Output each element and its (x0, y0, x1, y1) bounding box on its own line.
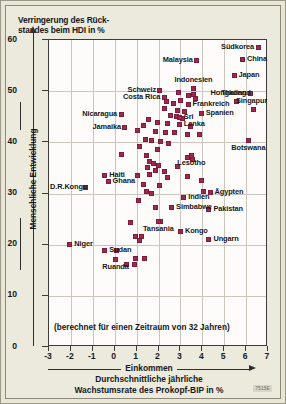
y-axis-label-rule-top (20, 102, 21, 130)
x-axis-tick-mark (136, 346, 137, 351)
y-axis-label: Menschliche Entwicklung (28, 104, 38, 254)
gridline-vertical (159, 40, 160, 345)
data-point-label: D.R.Kongo (50, 183, 87, 191)
data-point-labeled (240, 57, 245, 62)
x-axis-tick-label: -3 (36, 351, 60, 361)
data-point (163, 130, 168, 135)
data-point-label: Singapur (236, 97, 267, 105)
data-point (155, 147, 160, 152)
data-point (162, 106, 167, 111)
data-point (158, 139, 163, 144)
data-point (144, 153, 149, 158)
data-point (199, 178, 204, 183)
gridline-vertical (93, 40, 94, 345)
data-point (165, 175, 170, 180)
data-point-labeled (113, 257, 118, 262)
data-point (185, 174, 190, 179)
data-point-label: Kongo (185, 227, 208, 235)
data-point (157, 183, 162, 188)
data-point-label: Ruanda (102, 263, 129, 271)
data-point (141, 182, 146, 187)
data-point-labeled (102, 248, 107, 253)
data-point-label: China (247, 55, 267, 63)
data-point-label: Indien (188, 193, 209, 201)
inner-frame: Verringerung des Rück- standes beim HDI … (5, 5, 281, 399)
data-point-label: Niger (74, 240, 92, 248)
y-axis-tick-label: 20 (0, 238, 17, 248)
data-point-labeled (119, 112, 124, 117)
data-point-labeled (251, 107, 256, 112)
data-point-label: Malaysia (163, 56, 193, 64)
y-axis-label-rule-bottom (20, 218, 21, 270)
y-axis-tick-label: 60 (0, 34, 17, 44)
data-point (119, 152, 124, 157)
gridline-vertical (246, 40, 247, 345)
x-axis-tick-label: -2 (58, 351, 82, 361)
data-point-label: Pakistan (213, 205, 243, 213)
data-point-label: Spanien (206, 109, 234, 117)
data-point (145, 165, 150, 170)
data-point (166, 141, 171, 146)
data-point (172, 130, 177, 135)
data-point-labeled (169, 205, 174, 210)
data-point-label: Costa Rica (123, 93, 160, 101)
x-axis-tick-label: 1 (124, 351, 148, 361)
x-axis-tick-label: 0 (102, 351, 126, 361)
data-point (168, 113, 173, 118)
x-axis-tick-mark (223, 346, 224, 351)
data-point (186, 93, 191, 98)
figure-code: 7515E (253, 385, 272, 392)
data-point (137, 144, 142, 149)
data-point (144, 189, 149, 194)
chart-title-line2: standes beim HDI in % (18, 25, 198, 35)
data-point (141, 123, 146, 128)
data-point-label: Tansania (143, 225, 174, 233)
data-point (165, 121, 170, 126)
gridline-vertical (71, 40, 72, 345)
data-point-labeled (178, 229, 183, 234)
data-point-labeled (67, 242, 72, 247)
y-axis-tick-label: 0 (0, 341, 17, 351)
data-point (132, 262, 137, 267)
data-point-labeled (162, 95, 167, 100)
data-point (151, 161, 156, 166)
figure-frame: Verringerung des Rück- standes beim HDI … (0, 0, 286, 404)
x-axis-tick-label: 2 (146, 351, 170, 361)
x-axis-tick-label: 4 (189, 351, 213, 361)
data-point-label: Simbabwe (176, 203, 212, 211)
x-axis-tick-mark (179, 346, 180, 351)
data-point (153, 129, 158, 134)
data-point (178, 98, 183, 103)
data-point-labeled (177, 122, 182, 127)
chart-title-line1: Verringerung des Rück- (18, 15, 198, 25)
data-point-label: Ghana (113, 177, 136, 185)
x-axis-caption-line2: Durchschnittliche jährliche (6, 374, 286, 385)
x-axis-tick-label: 7 (255, 351, 279, 361)
data-point (147, 172, 152, 177)
data-point-labeled (232, 73, 237, 78)
data-point (133, 256, 138, 261)
data-point (143, 137, 148, 142)
data-point (149, 138, 154, 143)
data-point-labeled (206, 237, 211, 242)
x-axis-tick-label: 5 (211, 351, 235, 361)
data-point (146, 117, 151, 122)
data-point-label: Indonesien (175, 76, 213, 84)
data-point-label: Südkorea (221, 43, 254, 51)
data-point (153, 168, 158, 173)
x-axis-caption: Einkommen Durchschnittliche jährliche Wa… (6, 363, 286, 395)
x-axis-tick-mark (92, 346, 93, 351)
data-point-label: Botswana (231, 144, 265, 152)
data-point (149, 191, 154, 196)
data-point-label: Japan (239, 71, 260, 79)
chart-title: Verringerung des Rück- standes beim HDI … (18, 15, 198, 35)
data-point-labeled (177, 115, 182, 120)
data-point (162, 169, 167, 174)
x-axis-caption-line1: Einkommen (121, 363, 176, 373)
data-point (137, 238, 142, 243)
data-point-label: Lanka (184, 120, 205, 128)
x-axis-arrow-icon (249, 365, 256, 371)
data-point (175, 108, 180, 113)
data-point (176, 90, 181, 95)
x-axis-caption-row1: Einkommen (6, 363, 286, 374)
